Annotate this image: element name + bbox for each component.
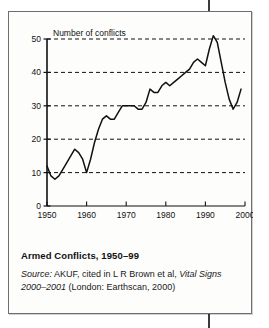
line-chart-svg: 01020304050 195019601970198019902000 Num… (9, 12, 253, 236)
svg-text:2000: 2000 (236, 210, 253, 220)
chart-series-line (47, 36, 241, 180)
svg-text:1960: 1960 (77, 210, 96, 220)
svg-text:1980: 1980 (156, 210, 175, 220)
svg-text:50: 50 (32, 34, 42, 44)
svg-text:20: 20 (32, 134, 42, 144)
caption-source-tail: (London: Earthscan, 2000) (66, 282, 175, 292)
caption-source: Source: AKUF, cited in L R Brown et al, … (21, 268, 243, 293)
figure-page: 01020304050 195019601970198019902000 Num… (0, 0, 269, 328)
svg-text:30: 30 (32, 101, 42, 111)
svg-text:1970: 1970 (117, 210, 136, 220)
chart-x-axis-ticks: 195019601970198019902000 (38, 202, 253, 221)
svg-text:1990: 1990 (196, 210, 215, 220)
svg-text:1950: 1950 (38, 210, 57, 220)
caption-source-rest: AKUF, cited in L R Brown et al, (52, 269, 179, 279)
caption-source-prefix: Source: (21, 269, 52, 279)
svg-text:40: 40 (32, 67, 42, 77)
caption-title: Armed Conflicts, 1950–99 (21, 250, 243, 262)
figure-caption: Armed Conflicts, 1950–99 Source: AKUF, c… (21, 250, 243, 293)
chart-gridlines (47, 39, 245, 173)
chart-y-axis-label: Number of conflicts (53, 28, 126, 38)
chart-plot-area: 01020304050 195019601970198019902000 Num… (9, 12, 253, 236)
svg-text:10: 10 (32, 168, 42, 178)
figure-box: 01020304050 195019601970198019902000 Num… (8, 11, 252, 314)
